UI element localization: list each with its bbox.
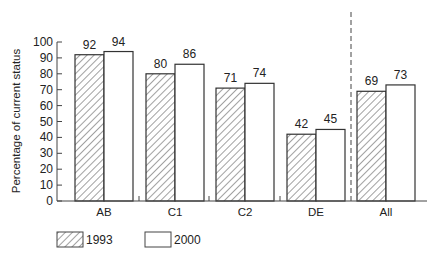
bar-chart: 0102030405060708090100 92948086717442456…: [0, 0, 438, 264]
y-axis-label: Percentage of current status: [10, 49, 22, 194]
legend-label-2000: 2000: [174, 233, 201, 247]
y-tick-label: 100: [33, 35, 53, 49]
bar-value-label: 45: [324, 112, 338, 126]
bar-value-label: 80: [154, 57, 168, 71]
y-axis: 0102030405060708090100: [33, 35, 62, 208]
y-tick-label: 40: [40, 130, 54, 144]
bar-value-label: 69: [365, 74, 379, 88]
bar-All-2000: [386, 85, 415, 201]
y-tick-label: 30: [40, 146, 54, 160]
legend: 1993 2000: [57, 232, 201, 247]
bar-value-label: 42: [295, 117, 309, 131]
y-tick-label: 50: [40, 115, 54, 129]
bar-DE-1993: [287, 134, 316, 201]
y-tick-label: 90: [40, 51, 54, 65]
bar-C1-2000: [175, 64, 204, 201]
bar-C2-1993: [216, 88, 245, 201]
y-tick-label: 60: [40, 99, 54, 113]
bar-AB-1993: [75, 55, 104, 201]
x-category-label: AB: [96, 206, 112, 218]
y-tick-label: 80: [40, 67, 54, 81]
x-category-label: C2: [238, 206, 253, 218]
legend-label-1993: 1993: [86, 233, 113, 247]
bar-value-label: 73: [394, 68, 408, 82]
bar-C1-1993: [146, 74, 175, 201]
bar-value-label: 71: [224, 71, 238, 85]
y-tick-label: 0: [46, 194, 53, 208]
bar-value-label: 86: [183, 47, 197, 61]
bar-AB-2000: [104, 52, 133, 201]
bars: 92948086717442456973: [75, 35, 415, 201]
legend-swatch-2000: [145, 232, 171, 247]
x-category-label: C1: [168, 206, 183, 218]
y-tick-label: 70: [40, 83, 54, 97]
x-category-label: All: [380, 206, 393, 218]
bar-All-1993: [357, 91, 386, 201]
bar-value-label: 74: [253, 66, 267, 80]
x-category-label: DE: [308, 206, 324, 218]
bar-value-label: 94: [112, 35, 126, 49]
legend-swatch-1993: [57, 232, 83, 247]
bar-DE-2000: [316, 129, 345, 201]
bar-C2-2000: [245, 83, 274, 201]
y-tick-label: 20: [40, 162, 54, 176]
y-tick-label: 10: [40, 178, 54, 192]
bar-value-label: 92: [83, 38, 97, 52]
